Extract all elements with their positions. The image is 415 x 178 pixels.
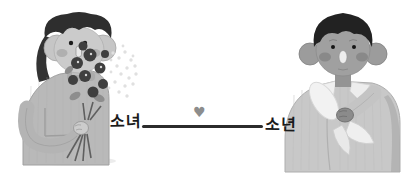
boy-cheek-left: [319, 53, 331, 62]
boy-cheek-right: [356, 53, 368, 62]
boy-hand: [337, 108, 354, 122]
boy-head: [299, 13, 387, 87]
boy-illustration: [272, 5, 410, 175]
boy-nose: [339, 51, 347, 64]
boy-eye-right: [352, 45, 356, 49]
connector-line: [142, 125, 263, 128]
boy-label: 소년: [265, 117, 297, 134]
girl-hand: [74, 122, 89, 135]
heart-icon: ♥: [193, 105, 206, 119]
girl-cheek-left: [57, 49, 68, 57]
girl-label: 소녀: [110, 114, 142, 131]
boy-eye-left: [331, 45, 335, 49]
illustration-canvas: 소녀 ♥ 소년: [0, 0, 415, 178]
girl-eye-left: [69, 41, 73, 45]
girl-illustration: [15, 8, 150, 173]
flowers-babys-breath: [108, 45, 138, 98]
